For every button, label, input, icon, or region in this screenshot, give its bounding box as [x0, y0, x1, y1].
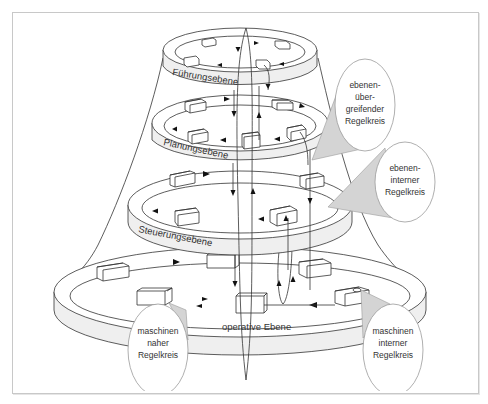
callout-ebenen-intern: ebenen- interner Regelkreis [328, 142, 435, 222]
svg-text:Regelkreis: Regelkreis [138, 350, 178, 360]
level-planungsebene: Planungsebene [152, 86, 328, 165]
svg-text:Regelkreis: Regelkreis [345, 116, 385, 126]
process-box [287, 125, 306, 141]
process-box [256, 60, 270, 69]
svg-text:maschinen: maschinen [372, 326, 413, 336]
process-box [175, 208, 199, 226]
process-box [137, 288, 172, 305]
control-loop-hierarchy-diagram: operative Ebene Steuerungsebene [0, 0, 488, 404]
process-box [300, 173, 324, 189]
svg-text:greifender: greifender [346, 104, 384, 114]
arrow-icon [266, 84, 271, 89]
process-box [272, 100, 293, 110]
process-box [184, 56, 199, 67]
callout-ebenen-uebergreifend: ebenen- über- greifender Regelkreis [312, 59, 395, 160]
svg-text:naher: naher [147, 338, 169, 348]
svg-text:maschinen: maschinen [137, 326, 178, 336]
svg-text:über-: über- [355, 92, 375, 102]
process-box [299, 259, 331, 278]
svg-text:ebenen-: ebenen- [389, 163, 420, 173]
level-label-operative: operative Ebene [222, 321, 291, 332]
process-box [202, 38, 216, 47]
svg-text:interner: interner [379, 338, 408, 348]
callout-maschinen-nah: maschinen naher Regelkreis [128, 303, 188, 396]
svg-text:ebenen-: ebenen- [349, 80, 380, 90]
process-box [185, 99, 206, 113]
process-box [275, 41, 290, 49]
svg-text:Regelkreis: Regelkreis [373, 350, 413, 360]
process-box [242, 132, 260, 149]
process-box [270, 206, 297, 226]
svg-text:interner: interner [391, 175, 420, 185]
svg-text:Regelkreis: Regelkreis [385, 187, 425, 197]
